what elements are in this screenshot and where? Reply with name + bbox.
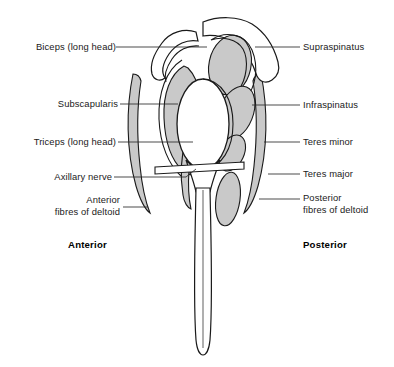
label-axillary-nerve: Axillary nerve [8, 171, 112, 183]
teres-major-shape [212, 171, 243, 228]
label-subscapularis: Subscapularis [8, 98, 118, 110]
shoulder-coronal-section-illustration [0, 0, 394, 367]
orientation-label-anterior: Anterior [68, 239, 107, 250]
label-infraspinatus: Infraspinatus [303, 99, 358, 111]
label-teres-minor: Teres minor [303, 136, 353, 148]
label-teres-major: Teres major [303, 168, 353, 180]
label-triceps-long-head: Triceps (long head) [6, 136, 116, 148]
label-posterior-fibres-of-deltoid: Posterior fibres of deltoid [303, 192, 368, 216]
label-anterior-fibres-of-deltoid: Anterior fibres of deltoid [6, 194, 120, 218]
figure-canvas: Biceps (long head) Subscapularis Triceps… [0, 0, 394, 367]
anterior-deltoid-shape [128, 74, 150, 213]
anatomy-shapes [128, 18, 279, 355]
label-supraspinatus: Supraspinatus [303, 41, 364, 53]
orientation-label-posterior: Posterior [303, 239, 347, 250]
label-biceps-long-head: Biceps (long head) [8, 41, 116, 53]
humeral-head-shape [177, 79, 229, 169]
